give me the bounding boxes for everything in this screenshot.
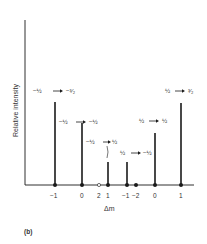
x-tick-label: 0 [80, 192, 84, 199]
svg-text:−½: −½ [89, 118, 98, 125]
dot-marker [53, 183, 57, 187]
spectrum-diagram: Relative intensity −½ −³⁄₂ −½ −½ −½ ½ ½ … [0, 0, 207, 244]
svg-text:½: ½ [112, 138, 117, 145]
x-tick-label: −2 [132, 192, 140, 199]
svg-text:½: ½ [165, 87, 170, 94]
x-tick-label: 1 [106, 192, 110, 199]
transition-label: −½ −½ [59, 118, 98, 125]
x-tick-label: 0 [153, 192, 157, 199]
arrowhead-icon [60, 89, 63, 92]
x-tick-label: 2 [97, 192, 101, 199]
svg-text:−³⁄₂: −³⁄₂ [66, 87, 76, 94]
dot-marker [179, 183, 183, 187]
dot-marker [134, 183, 138, 187]
dot-marker [80, 183, 84, 187]
svg-text:−½: −½ [143, 149, 152, 156]
svg-text:−½: −½ [59, 118, 68, 125]
transition-label: −½ ½ [86, 138, 117, 145]
label-connector [107, 146, 108, 158]
arrowhead-icon [83, 120, 86, 123]
dot-marker [125, 183, 129, 187]
arrowhead-icon [182, 89, 185, 92]
arrowhead-icon [138, 151, 141, 154]
open-circle-marker [97, 183, 100, 186]
transition-label: ½ −½ [120, 149, 152, 156]
x-axis-title: Δm [104, 205, 115, 212]
svg-text:½: ½ [139, 117, 144, 124]
svg-text:−½: −½ [86, 138, 95, 145]
arrowhead-icon [108, 140, 111, 143]
dot-marker [106, 183, 110, 187]
x-tick-label: −1 [122, 192, 130, 199]
svg-text:½: ½ [162, 117, 167, 124]
transition-label: −½ −³⁄₂ [33, 87, 76, 94]
y-axis-title: Relative intensity [12, 84, 20, 137]
transition-label: ½ ½ [139, 117, 167, 124]
svg-text:³⁄₂: ³⁄₂ [188, 87, 194, 94]
x-tick-label: −1 [50, 192, 58, 199]
svg-text:−½: −½ [33, 87, 42, 94]
dot-marker [153, 183, 157, 187]
x-tick-label: 1 [179, 192, 183, 199]
arrowhead-icon [156, 119, 159, 122]
svg-text:½: ½ [120, 149, 125, 156]
transition-label: ½ ³⁄₂ [165, 87, 194, 94]
panel-label: (b) [24, 228, 32, 236]
